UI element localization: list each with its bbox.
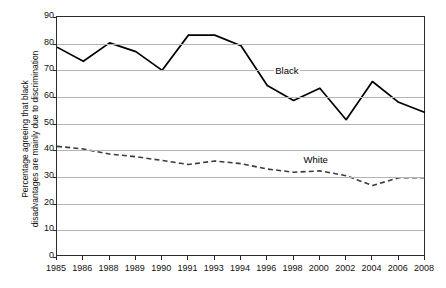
x-tick-label: 1986 [72, 263, 92, 274]
x-tick-mark [82, 256, 83, 260]
y-tick-mark [53, 70, 57, 71]
x-tick-label: 1990 [151, 263, 171, 274]
gridline [57, 124, 424, 125]
x-tick-mark [398, 256, 399, 260]
y-tick-label: 90 [34, 11, 54, 20]
gridline [57, 44, 424, 45]
x-tick-mark [240, 256, 241, 260]
x-tick-mark [187, 256, 188, 260]
y-tick-label: 50 [34, 118, 54, 127]
gridline [57, 230, 424, 231]
gridline [57, 177, 424, 178]
x-tick-label: 2006 [388, 263, 408, 274]
x-axis-ticks [56, 256, 425, 262]
gridline [57, 97, 424, 98]
series-line-black [57, 35, 425, 120]
x-tick-mark [135, 256, 136, 260]
x-tick-mark [345, 256, 346, 260]
x-tick-label: 2004 [361, 263, 381, 274]
x-tick-mark [266, 256, 267, 260]
x-tick-mark [293, 256, 294, 260]
y-tick-label: 0 [34, 251, 54, 260]
y-tick-label: 60 [34, 91, 54, 100]
y-tick-mark [53, 17, 57, 18]
y-tick-label: 20 [34, 198, 54, 207]
x-tick-label: 1989 [125, 263, 145, 274]
y-tick-label: 10 [34, 224, 54, 233]
x-tick-mark [56, 256, 57, 260]
y-tick-label: 40 [34, 144, 54, 153]
series-label-white: White [303, 154, 329, 165]
x-tick-label: 1998 [283, 263, 303, 274]
y-tick-label: 70 [34, 64, 54, 73]
x-tick-label: 1991 [177, 263, 197, 274]
gridline [57, 204, 424, 205]
x-tick-label: 2000 [309, 263, 329, 274]
y-axis-title: Percentage agreeing that black disadvant… [0, 0, 30, 288]
chart-container: Percentage agreeing that black disadvant… [0, 0, 446, 288]
series-line-white [57, 146, 425, 185]
y-tick-mark [53, 44, 57, 45]
x-tick-label: 1985 [46, 263, 66, 274]
x-axis-tick-labels: 1985198619881989199019911993199419961998… [0, 263, 446, 277]
x-tick-label: 1993 [204, 263, 224, 274]
y-axis-title-line-1: Percentage agreeing that black [20, 80, 30, 198]
y-tick-mark [53, 177, 57, 178]
gridline [57, 150, 424, 151]
x-tick-mark [109, 256, 110, 260]
gridline [57, 70, 424, 71]
x-tick-mark [424, 256, 425, 260]
y-tick-mark [53, 150, 57, 151]
x-tick-label: 1994 [230, 263, 250, 274]
y-tick-label: 80 [34, 38, 54, 47]
y-tick-mark [53, 230, 57, 231]
x-tick-label: 1988 [99, 263, 119, 274]
x-tick-mark [214, 256, 215, 260]
y-tick-mark [53, 204, 57, 205]
x-tick-mark [319, 256, 320, 260]
y-tick-mark [53, 124, 57, 125]
series-lines [57, 17, 426, 257]
series-label-black: Black [274, 65, 299, 76]
y-tick-mark [53, 97, 57, 98]
y-axis-tick-labels: 0102030405060708090 [33, 0, 54, 288]
x-tick-label: 1996 [256, 263, 276, 274]
x-tick-label: 2002 [335, 263, 355, 274]
plot-area [56, 16, 425, 256]
x-tick-label: 2008 [414, 263, 434, 274]
y-tick-label: 30 [34, 171, 54, 180]
x-tick-mark [161, 256, 162, 260]
x-tick-mark [371, 256, 372, 260]
